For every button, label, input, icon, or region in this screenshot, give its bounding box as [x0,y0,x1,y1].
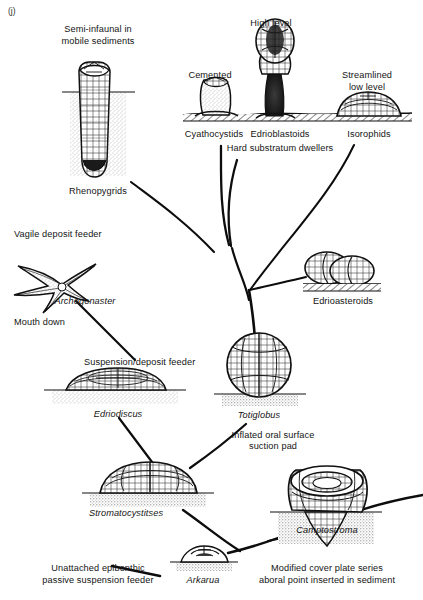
taxon-label-cyathocystids: Cyathocystids [185,129,244,141]
taxon-label-camptostroma: Camptostroma [296,525,357,537]
connector-stromatocystitses-to-arkarua [183,510,240,551]
habit-label-edriodiscus: Suspension/deposit feeder [84,357,195,369]
organism-cyathocystids [195,77,238,116]
annotation-passive-suspension-feeder: passive suspension feeder [42,575,153,587]
annotation-suction-pad: suction pad [249,441,297,453]
annotation-mouth-down: Mouth down [14,317,65,329]
habit-label-rhenopygrids: Semi-infaunal in mobile sediments [61,24,134,47]
habit-label-isorophids: Streamlined low level [342,70,392,93]
organism-totiglobus [214,333,306,406]
organism-edriodiscus [44,368,186,404]
taxon-label-edrioasteroids: Edrioasteroids [313,296,373,308]
habit-label-cyathocystids: Cemented [188,70,231,82]
annotation-modified-cover-plate-series: Modified cover plate series [271,563,383,575]
habit-label-archegonaster: Vagile deposit feeder [14,229,102,241]
taxon-label-totiglobus: Totiglobus [238,410,281,422]
organism-stromatocystitses [82,462,214,507]
organism-rhenopygrids [62,62,135,177]
organism-arkarua [170,546,238,571]
connector-edrioblastoids-to-node [229,160,237,246]
taxon-label-edriodiscus: Edriodiscus [94,409,143,421]
annotation-unattached-epibenthic: Unattached epibenthic [51,563,145,575]
organism-isorophids [337,92,401,116]
taxon-label-archegonaster: Archegonaster [54,296,115,308]
panel-tag: (j) [8,6,16,16]
annotation-aboral-point-inserted: aboral point inserted in sediment [259,575,395,587]
figure-canvas: (j) Semi-infaunal in mobile sediments Ce… [0,0,423,600]
taxon-label-isorophids: Isorophids [347,129,390,141]
habit-label-edrioblastoids: High level [250,18,291,30]
taxon-label-rhenopygrids: Rhenopygrids [69,186,127,198]
taxon-label-arkarua: Arkarua [187,575,220,587]
connector-node-to-totiglobus [232,248,249,300]
organism-edrioblastoids [256,19,295,118]
connector-archegonaster-to-edriodiscus [76,301,135,360]
annotation-hard-substratum-dwellers: Hard substratum dwellers [227,143,334,155]
annotation-inflated-oral-surface: Inflated oral surface [232,430,315,442]
connector-cyathocystids-to-node [221,146,229,245]
taxon-label-stromatocystitses: Stromatocystitses [89,508,163,520]
connector-rhenopygrids-to-node [131,182,214,252]
connector-trunk-to-totiglobus [249,290,255,340]
organism-edrioasteroids [303,252,381,291]
taxon-label-edrioblastoids: Edrioblastoids [250,129,309,141]
